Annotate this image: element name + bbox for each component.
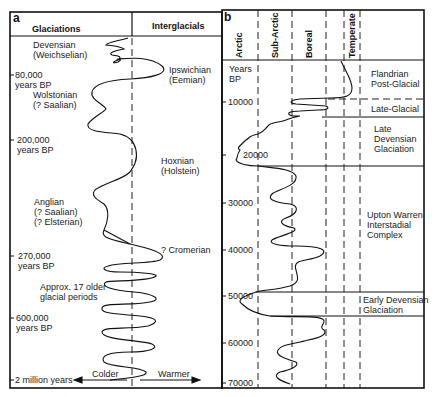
period-late-glacial: Late-Glacial bbox=[371, 104, 419, 114]
tick-40000: 40000 bbox=[228, 245, 253, 255]
anglian-label: Anglian (? Saalian) (? Elsterian) bbox=[34, 197, 83, 227]
tick-200000: 200,000 years BP bbox=[17, 135, 54, 155]
tick-270000: 270,000 years BP bbox=[18, 251, 55, 271]
tick-80000: 80,000 years BP bbox=[15, 70, 52, 90]
column-boreal: Boreal bbox=[304, 30, 314, 58]
tick-20000: 20000 bbox=[243, 150, 268, 160]
tick-70000: 70000 bbox=[228, 378, 253, 388]
wolstonian-label: Wolstonian (? Saalian) bbox=[33, 90, 77, 110]
hoxnian-label: Hoxnian (Holstein) bbox=[161, 156, 200, 176]
column-temperate: Temperate bbox=[347, 13, 357, 58]
period-early-devensian: Early Devensian Glaciation bbox=[363, 295, 429, 315]
tick-10000: 10000 bbox=[228, 97, 253, 107]
column-sub-arctic: Sub-Arctic bbox=[270, 12, 280, 58]
panel-a-letter: a bbox=[13, 11, 20, 25]
column-arctic: Arctic bbox=[234, 32, 244, 58]
period-late-devensian: Late Devensian Glaciation bbox=[374, 124, 417, 154]
tick-600000: 600,000 years BP bbox=[16, 313, 53, 333]
tick-60000: 60000 bbox=[228, 338, 253, 348]
tick-50000: 50000 bbox=[228, 291, 253, 301]
older-glacials-label: Approx. 17 older glacial periods bbox=[40, 282, 106, 302]
panel-a-temperature-curve bbox=[88, 38, 164, 380]
panel-b-letter: b bbox=[224, 10, 231, 24]
ipswichian-label: Ipswichian (Eemian) bbox=[169, 65, 211, 85]
devensian-label: Devensian (Weichselian) bbox=[33, 40, 87, 60]
panel-b-column-lines bbox=[258, 10, 360, 388]
tick-30000: 30000 bbox=[228, 198, 253, 208]
tick-2-million: 2 million years bbox=[15, 375, 73, 385]
years-bp-label: Years BP bbox=[229, 64, 252, 84]
interglacials-header: Interglacials bbox=[152, 21, 205, 31]
panel-b-temperature-curve bbox=[236, 61, 352, 384]
cromerian-label: ? Cromerian bbox=[161, 245, 211, 255]
glaciations-header: Glaciations bbox=[32, 24, 81, 34]
period-flandrian: Flandrian Post-Glacial bbox=[371, 69, 420, 89]
colder-label: Colder bbox=[92, 369, 119, 379]
warmer-label: Warmer bbox=[158, 369, 190, 379]
period-upton-warren: Upton Warren Interstadial Complex bbox=[367, 210, 423, 240]
